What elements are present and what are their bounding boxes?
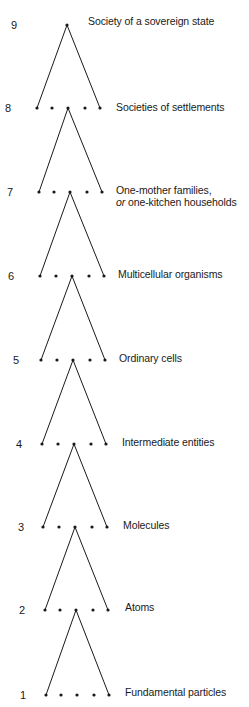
- branch-line-left: [43, 444, 74, 527]
- branch-line-right: [72, 276, 105, 360]
- branch-line-left: [39, 108, 68, 192]
- level-dot: [58, 608, 61, 611]
- level-label: Ordinary cells: [119, 352, 182, 364]
- level-dot: [50, 106, 53, 109]
- level-dot: [106, 608, 109, 611]
- level-dot: [65, 23, 68, 26]
- branch-line-right: [67, 25, 100, 108]
- level-label-text: Societies of settlements: [116, 101, 225, 113]
- level-dot: [85, 190, 88, 193]
- level-label-text: Molecules: [123, 519, 169, 531]
- level-dot: [52, 190, 55, 193]
- level-label: Society of a sovereign state: [88, 15, 214, 27]
- level-number: 5: [10, 354, 22, 366]
- level-dot: [38, 274, 41, 277]
- level-dot: [92, 693, 95, 696]
- level-dot: [37, 190, 40, 193]
- level-label-rest: one-kitchen households: [125, 196, 237, 208]
- level-dot: [100, 190, 103, 193]
- level-dot: [90, 525, 93, 528]
- branch-line-left: [42, 360, 73, 444]
- level-dot: [39, 358, 42, 361]
- level-dot: [40, 442, 43, 445]
- level-dot: [41, 525, 44, 528]
- level-dot: [105, 525, 108, 528]
- level-dot: [73, 525, 76, 528]
- level-number: 2: [16, 604, 28, 616]
- level-dot: [88, 358, 91, 361]
- level-label-text: Intermediate entities: [122, 436, 214, 448]
- level-dot: [72, 442, 75, 445]
- branch-line-right: [74, 444, 107, 527]
- level-dot: [104, 442, 107, 445]
- level-label-text: One-mother families,: [116, 184, 237, 196]
- level-dot: [44, 693, 47, 696]
- level-label-text: Society of a sovereign state: [88, 15, 214, 27]
- level-dot: [66, 106, 69, 109]
- branch-line-right: [75, 527, 108, 610]
- level-number: 4: [13, 438, 25, 450]
- level-number: 6: [5, 270, 17, 282]
- level-dot: [70, 274, 73, 277]
- level-number: 8: [2, 102, 14, 114]
- level-label: One-mother families,or one-kitchen house…: [116, 184, 237, 208]
- level-dot: [56, 442, 59, 445]
- branch-line-right: [73, 360, 106, 444]
- level-dot: [91, 608, 94, 611]
- level-label-text-line2: or one-kitchen households: [116, 196, 237, 208]
- level-label-emphasis: or: [116, 196, 125, 208]
- level-dot: [55, 358, 58, 361]
- level-label: Atoms: [125, 601, 154, 613]
- level-label-text: Fundamental particles: [125, 686, 226, 698]
- branch-line-right: [76, 610, 109, 695]
- level-dot: [107, 693, 110, 696]
- level-label: Molecules: [123, 519, 169, 531]
- level-label-text: Multicellular organisms: [118, 268, 223, 280]
- level-dot: [83, 106, 86, 109]
- level-label: Intermediate entities: [122, 436, 214, 448]
- branch-line-left: [46, 610, 76, 695]
- level-dot: [43, 608, 46, 611]
- level-dot: [71, 358, 74, 361]
- branch-line-left: [41, 276, 72, 360]
- level-label-text: Atoms: [125, 601, 154, 613]
- level-dot: [87, 274, 90, 277]
- level-dot: [102, 274, 105, 277]
- level-dot: [35, 106, 38, 109]
- level-number: 7: [4, 186, 16, 198]
- level-dot: [75, 693, 78, 696]
- level-number: 3: [15, 521, 27, 533]
- branch-line-right: [68, 108, 102, 192]
- branch-line-left: [45, 527, 75, 610]
- branch-line-left: [37, 25, 67, 108]
- level-dot: [103, 358, 106, 361]
- level-label-text: Ordinary cells: [119, 352, 182, 364]
- level-dot: [68, 190, 71, 193]
- level-dot: [57, 525, 60, 528]
- level-label: Multicellular organisms: [118, 268, 223, 280]
- level-dot: [98, 106, 101, 109]
- level-dot: [74, 608, 77, 611]
- level-dot: [89, 442, 92, 445]
- level-dot: [54, 274, 57, 277]
- level-dots: [35, 23, 110, 696]
- level-label: Fundamental particles: [125, 686, 226, 698]
- level-dot: [59, 693, 62, 696]
- branch-line-left: [40, 192, 70, 276]
- level-label: Societies of settlements: [116, 101, 225, 113]
- level-number: 1: [17, 689, 29, 701]
- level-number: 9: [8, 19, 20, 31]
- branch-line-right: [70, 192, 104, 276]
